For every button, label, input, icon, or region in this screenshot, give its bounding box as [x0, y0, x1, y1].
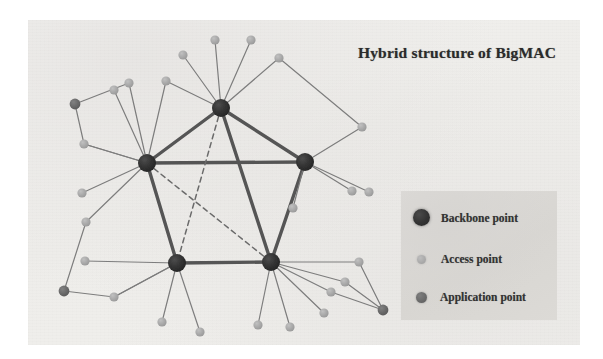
graph-edge-access [75, 83, 129, 104]
graph-node-access [364, 187, 373, 196]
node-layer [59, 35, 389, 336]
graph-edge-trunk [147, 163, 177, 263]
figure-root: Hybrid structure of BigMAC Backbone poin… [0, 0, 603, 359]
graph-node-access [109, 292, 118, 301]
graph-node-access [246, 35, 255, 44]
graph-edge-access [258, 262, 271, 325]
graph-node-access [109, 85, 118, 94]
graph-edge-access [271, 262, 331, 292]
graph-edge-access [166, 81, 221, 108]
graph-edge-access [64, 291, 114, 297]
legend: Backbone point Access point Application … [401, 191, 557, 320]
edge-layer [64, 40, 383, 332]
graph-node-application [70, 99, 81, 110]
graph-edge-trunk [177, 262, 271, 263]
graph-node-access [80, 256, 89, 265]
graph-node-application [59, 286, 70, 297]
graph-edge-access [183, 55, 221, 108]
graph-node-access [157, 317, 166, 326]
graph-edge-access [114, 263, 177, 297]
legend-label-application: Application point [440, 291, 526, 303]
graph-edge-trunk [221, 108, 305, 162]
graph-edge-access [221, 58, 279, 108]
graph-node-access [253, 320, 262, 329]
graph-node-backbone [138, 154, 156, 172]
graph-node-access [124, 78, 133, 87]
graph-node-backbone [296, 153, 314, 171]
graph-edge-access [221, 40, 251, 108]
graph-node-backbone [262, 253, 280, 271]
graph-node-access [357, 122, 366, 131]
graph-node-access [326, 287, 335, 296]
graph-node-access [178, 50, 187, 59]
graph-edge-access [84, 144, 147, 163]
graph-edge-trunk [271, 162, 305, 262]
graph-node-access [347, 186, 356, 195]
graph-node-access [161, 76, 170, 85]
backbone-point-icon [413, 209, 430, 226]
graph-node-access [195, 327, 204, 336]
graph-node-access [340, 277, 349, 286]
graph-edge-access [85, 261, 177, 263]
graph-edge-access [305, 162, 369, 192]
graph-edge-access [86, 163, 147, 222]
graph-node-access [77, 188, 86, 197]
graph-node-access [288, 203, 297, 212]
graph-edge-access [345, 282, 383, 310]
legend-label-backbone: Backbone point [441, 212, 518, 224]
graph-edge-access [177, 263, 200, 332]
graph-edge-dashed [177, 108, 221, 263]
graph-edge-access [75, 104, 84, 144]
legend-item-backbone: Backbone point [413, 209, 518, 226]
legend-label-access: Access point [441, 253, 502, 265]
graph-node-access [285, 322, 294, 331]
graph-node-backbone [168, 254, 186, 272]
graph-edge-access [215, 40, 221, 108]
graph-node-backbone [212, 99, 230, 117]
legend-item-access: Access point [413, 253, 502, 265]
graph-edge-trunk [147, 162, 305, 163]
graph-edge-trunk [221, 108, 271, 262]
graph-node-access [210, 35, 219, 44]
graph-node-access [79, 139, 88, 148]
graph-edge-access [162, 263, 177, 322]
graph-edge-access [114, 90, 147, 163]
graph-edge-access [129, 83, 147, 163]
graph-node-access [81, 217, 90, 226]
graph-node-access [274, 53, 283, 62]
legend-item-application: Application point [413, 291, 526, 303]
access-point-icon [417, 255, 426, 264]
graph-edge-access [82, 163, 147, 193]
application-point-icon [416, 292, 427, 303]
graph-edge-access [279, 58, 362, 127]
graph-edge-access [305, 127, 362, 162]
figure-title: Hybrid structure of BigMAC [332, 44, 582, 62]
graph-node-access [319, 308, 328, 317]
graph-node-access [354, 257, 363, 266]
graph-edge-dashed [147, 163, 271, 262]
graph-node-application [378, 305, 389, 316]
graph-edge-access [64, 222, 86, 291]
